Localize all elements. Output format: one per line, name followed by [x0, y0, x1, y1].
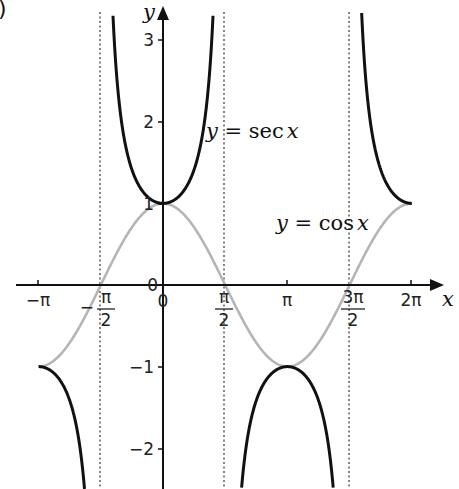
sec-curve: [39, 13, 412, 489]
y-tick-3: 3: [143, 30, 154, 50]
svg-text:−: −: [80, 297, 94, 317]
x-tick-neg-pi: −π: [26, 290, 50, 310]
sec-curve-label: y = secx: [205, 119, 299, 143]
asymptotes: [100, 12, 349, 489]
sec-cos-graph: y x 3 2 1 0 −1 −2 −π − π 2 0 π 2 π 3π 2 …: [0, 0, 459, 489]
x-axis: [16, 279, 444, 291]
y-tick-0: 0: [147, 275, 158, 295]
svg-text:π: π: [101, 287, 111, 307]
x-tick-pi: π: [282, 290, 292, 310]
x-tick-0: 0: [158, 291, 169, 311]
svg-text:3π: 3π: [342, 287, 363, 307]
y-axis: [157, 6, 169, 489]
y-tick-1: 1: [143, 194, 154, 214]
y-axis-arrow-icon: [157, 6, 169, 20]
svg-text:π: π: [219, 287, 229, 307]
svg-text:2: 2: [101, 310, 112, 330]
y-tick-neg2: −2: [129, 439, 154, 459]
x-tick-two-pi: 2π: [400, 290, 421, 310]
svg-text:2: 2: [219, 310, 230, 330]
y-tick-2: 2: [143, 112, 154, 132]
cos-curve-label: y = cosx: [275, 211, 369, 235]
svg-text:2: 2: [348, 310, 359, 330]
y-axis-label: y: [142, 0, 156, 24]
x-tick-three-half-pi: 3π 2: [341, 287, 365, 330]
x-axis-label: x: [442, 287, 454, 311]
y-tick-neg1: −1: [129, 357, 154, 377]
